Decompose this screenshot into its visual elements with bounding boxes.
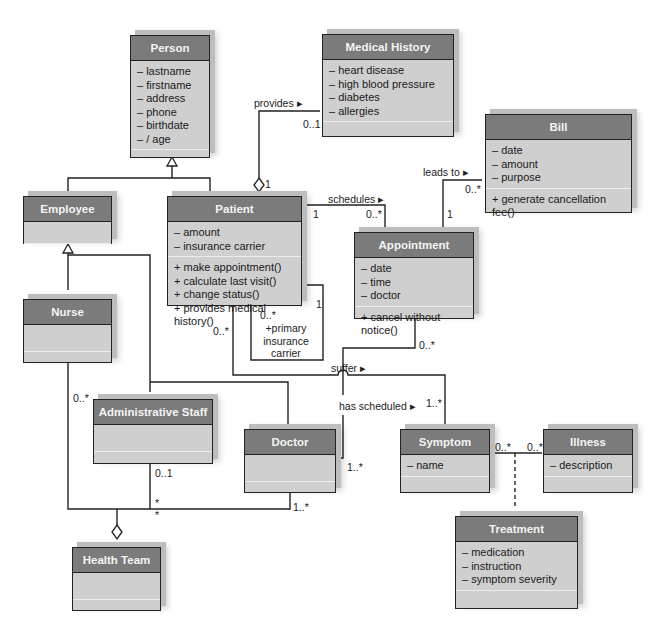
schedules-mult-appointment: 0..* <box>366 208 382 220</box>
class-bill-operations: + generate cancellation fee() <box>486 188 631 223</box>
provides-label: provides ▸ <box>254 97 303 109</box>
class-symptom-name: Symptom <box>401 430 489 455</box>
provides-mult-history: 0..1 <box>303 118 321 130</box>
role-line: +primary <box>254 322 318 335</box>
role-line: carrier <box>254 347 318 360</box>
attribute: – description <box>550 459 626 473</box>
attribute: – phone <box>137 106 203 120</box>
health-team-mult-star-2: * <box>155 509 159 521</box>
class-patient-attributes: – amount – insurance carrier <box>168 222 301 256</box>
class-nurse-name: Nurse <box>24 300 111 325</box>
class-bill-name: Bill <box>486 115 631 140</box>
leads-to-label: leads to ▸ <box>423 166 469 178</box>
attribute: – high blood pressure <box>329 78 447 92</box>
has-scheduled-mult-appointment: 0..* <box>419 339 435 351</box>
class-administrative-staff-attributes <box>94 425 212 451</box>
attribute: – date <box>361 262 467 276</box>
has-scheduled-label: has scheduled ▸ <box>337 400 418 412</box>
attribute: – lastname <box>137 65 203 79</box>
generalization-person-line <box>68 178 210 196</box>
attribute: – birthdate <box>137 119 203 133</box>
class-doctor: Doctor <box>244 429 336 493</box>
class-nurse-operations <box>24 351 111 378</box>
symptom-illness-mult-illness: 0..* <box>527 441 543 453</box>
class-employee-operations <box>24 243 111 265</box>
class-medical-history: Medical History – heart disease – high b… <box>322 34 454 137</box>
operation: + calculate last visit() <box>174 275 295 289</box>
health-team-mult-nurse: 0..* <box>73 392 89 404</box>
class-employee-attributes <box>24 222 111 243</box>
class-treatment-operations <box>456 590 577 617</box>
leads-to-mult-bill: 0..* <box>465 183 481 195</box>
attribute: – time <box>361 276 467 290</box>
insurance-mult-b: 0..* <box>260 309 276 321</box>
class-person: Person – lastname – firstname – address … <box>130 35 210 158</box>
class-treatment: Treatment – medication – instruction – s… <box>455 516 578 609</box>
class-person-attributes: – lastname – firstname – address – phone… <box>131 61 209 149</box>
attribute: – symptom severity <box>462 573 571 587</box>
operation: + make appointment() <box>174 261 295 275</box>
class-person-name: Person <box>131 36 209 61</box>
operation: + cancel without notice() <box>361 311 467 338</box>
health-team-mult-doctor: 1..* <box>293 501 309 513</box>
class-appointment: Appointment – date – time – doctor + can… <box>354 232 474 319</box>
attribute: – diabetes <box>329 91 447 105</box>
schedules-label: schedules ▸ <box>328 193 384 205</box>
attribute: – heart disease <box>329 64 447 78</box>
class-medical-history-attributes: – heart disease – high blood pressure – … <box>323 60 453 121</box>
class-bill-attributes: – date – amount – purpose <box>486 140 631 188</box>
attribute: – address <box>137 92 203 106</box>
class-doctor-attributes <box>245 455 335 481</box>
symptom-illness-mult-symptom: 0..* <box>495 441 511 453</box>
class-person-operations <box>131 149 209 176</box>
insurance-role-label: +primary insurance carrier <box>254 322 318 360</box>
class-illness-name: Illness <box>544 430 632 455</box>
class-patient-name: Patient <box>168 197 301 222</box>
class-health-team: Health Team <box>72 547 161 611</box>
attribute: – firstname <box>137 79 203 93</box>
class-health-team-name: Health Team <box>73 548 160 573</box>
class-patient: Patient – amount – insurance carrier + m… <box>167 196 302 306</box>
suffer-mult-patient: 0..* <box>213 325 229 337</box>
operation: + generate cancellation fee() <box>492 193 625 220</box>
suffer-label: suffer ▸ <box>331 362 366 374</box>
class-medical-history-operations <box>323 121 453 148</box>
attribute: – name <box>407 459 483 473</box>
class-nurse: Nurse <box>23 299 112 363</box>
role-line: insurance <box>254 335 318 348</box>
class-administrative-staff: Administrative Staff <box>93 399 213 464</box>
class-appointment-operations: + cancel without notice() <box>355 306 473 341</box>
health-team-mult-admin: 0..1 <box>155 467 173 479</box>
provides-mult-patient: 1 <box>265 178 271 190</box>
class-appointment-attributes: – date – time – doctor <box>355 258 473 306</box>
attribute: – amount <box>174 226 295 240</box>
class-doctor-operations <box>245 481 335 508</box>
attribute: – allergies <box>329 105 447 119</box>
aggregation-diamond-health-team-icon <box>112 525 122 539</box>
health-team-mult-star-1: * <box>155 497 159 509</box>
has-scheduled-mult-doctor: 1..* <box>347 461 363 473</box>
class-appointment-name: Appointment <box>355 233 473 258</box>
class-administrative-staff-operations <box>94 451 212 478</box>
class-illness-operations <box>544 476 632 503</box>
class-administrative-staff-name: Administrative Staff <box>94 400 212 425</box>
class-medical-history-name: Medical History <box>323 35 453 60</box>
attribute: – purpose <box>492 171 625 185</box>
class-nurse-attributes <box>24 325 111 351</box>
class-patient-operations: + make appointment() + calculate last vi… <box>168 256 301 332</box>
class-symptom-attributes: – name <box>401 455 489 476</box>
class-health-team-attributes <box>73 573 160 599</box>
aggregation-diamond-patient-icon <box>254 178 264 192</box>
attribute: – medication <box>462 546 571 560</box>
attribute: – insurance carrier <box>174 240 295 254</box>
class-symptom: Symptom – name <box>400 429 490 493</box>
attribute: – date <box>492 144 625 158</box>
has-scheduled-line-lower <box>336 415 343 458</box>
attribute: – amount <box>492 158 625 172</box>
class-illness-attributes: – description <box>544 455 632 476</box>
operation: + change status() <box>174 288 295 302</box>
class-employee: Employee <box>23 196 112 244</box>
class-doctor-name: Doctor <box>245 430 335 455</box>
class-symptom-operations <box>401 476 489 503</box>
insurance-mult-a: 1 <box>316 298 322 310</box>
